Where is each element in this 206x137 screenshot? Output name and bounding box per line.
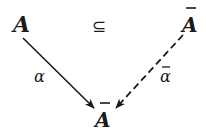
node-top-right: A xyxy=(180,8,198,37)
edge-right-label: α xyxy=(160,67,171,86)
commutative-diagram: A ⊆ A A α α xyxy=(0,0,206,137)
edge-right: α xyxy=(116,35,183,108)
subset-eq-icon: ⊆ xyxy=(92,16,106,36)
edge-left: α xyxy=(23,38,94,108)
node-bottom: A xyxy=(93,103,111,132)
diagram-canvas: A ⊆ A A α α xyxy=(0,0,206,137)
edge-left-label: α xyxy=(34,67,45,86)
node-top-right-label: A xyxy=(180,13,198,37)
subset-relation: ⊆ xyxy=(92,16,106,36)
node-bottom-label: A xyxy=(93,108,111,132)
node-top-left: A xyxy=(11,11,30,37)
node-top-left-label: A xyxy=(11,11,30,37)
dashed-arrow-icon xyxy=(116,35,183,108)
